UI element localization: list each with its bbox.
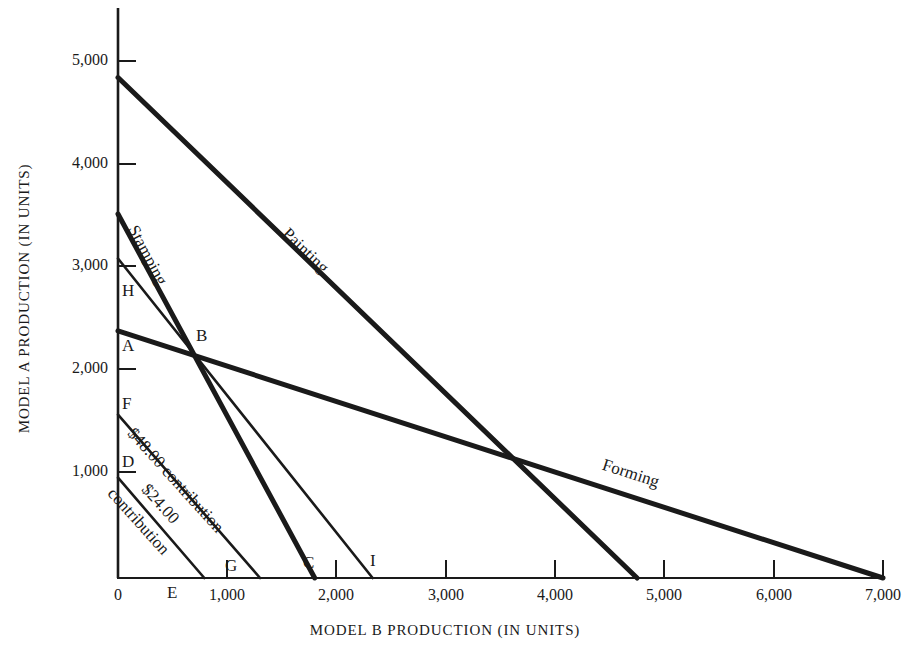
point-label-h: H: [122, 281, 134, 301]
y-tick-label-3000: 3,000: [38, 256, 108, 274]
point-label-i: I: [370, 551, 376, 571]
series-line-forming: [118, 331, 883, 578]
point-label-f: F: [122, 394, 131, 414]
x-tick-label-0: 0: [78, 586, 158, 604]
point-label-d: D: [122, 452, 134, 472]
point-label-c: C: [303, 553, 314, 573]
x-tick-label-7000: 7,000: [843, 586, 906, 604]
axis-lines: [117, 8, 884, 578]
x-tick-label-6000: 6,000: [734, 586, 814, 604]
y-axis-title: MODEL A PRODUCTION (IN UNITS): [16, 89, 33, 509]
y-tick-label-1000: 1,000: [38, 462, 108, 480]
x-axis-ticks: [227, 560, 883, 578]
x-axis-title: MODEL B PRODUCTION (IN UNITS): [0, 622, 890, 639]
series-lines: [118, 78, 883, 578]
point-label-e: E: [167, 583, 177, 603]
y-tick-label-2000: 2,000: [38, 359, 108, 377]
x-tick-label-2000: 2,000: [296, 586, 376, 604]
point-label-g: G: [225, 556, 237, 576]
x-tick-label-5000: 5,000: [624, 586, 704, 604]
point-label-b: B: [196, 326, 207, 346]
x-tick-label-4000: 4,000: [515, 586, 595, 604]
point-label-a: A: [122, 336, 134, 356]
y-tick-label-5000: 5,000: [38, 51, 108, 69]
x-tick-label-3000: 3,000: [406, 586, 486, 604]
y-tick-label-4000: 4,000: [38, 154, 108, 172]
x-tick-label-1000: 1,000: [187, 586, 267, 604]
